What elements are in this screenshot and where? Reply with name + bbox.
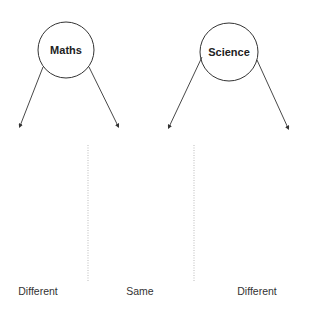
maths-right-arrow — [89, 67, 118, 126]
maths-label: Maths — [50, 44, 82, 56]
science-left-arrow — [169, 57, 202, 127]
node-maths: Maths — [38, 22, 94, 78]
category-different-science: Different — [237, 285, 277, 297]
category-different-maths: Different — [18, 285, 58, 297]
venn-comparison-diagram: Maths Science Different Same Different — [0, 0, 312, 326]
node-science: Science — [200, 23, 258, 81]
science-label: Science — [208, 46, 250, 58]
category-same: Same — [126, 285, 154, 297]
maths-left-arrow — [20, 67, 43, 126]
science-right-arrow — [257, 60, 288, 128]
